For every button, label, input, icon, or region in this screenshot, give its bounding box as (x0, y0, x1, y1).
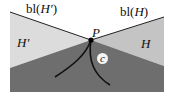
region-label-h: H (141, 37, 150, 50)
region-label-h-prime: H' (17, 36, 29, 49)
label-text: bl( (120, 4, 134, 19)
label-text: bl( (26, 1, 40, 16)
boundary-label-h: bl(H) (120, 5, 148, 18)
point-label-p: P (92, 26, 100, 39)
label-text: ) (53, 1, 57, 16)
label-text: ) (144, 4, 148, 19)
boundary-label-h-prime: bl(H') (26, 2, 57, 15)
curve-label-c: c (97, 53, 108, 64)
label-var: H' (40, 1, 52, 16)
label-var: H (134, 4, 143, 19)
